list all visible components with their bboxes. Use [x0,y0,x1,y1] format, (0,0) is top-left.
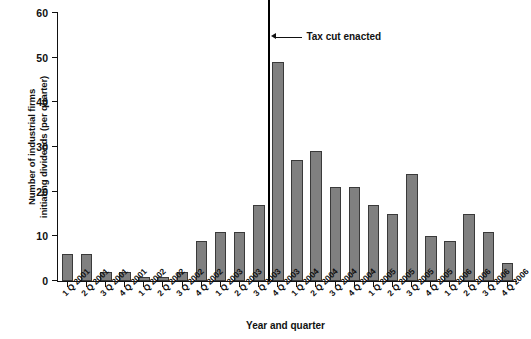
y-axis-tick-label: 10 [36,230,48,242]
bar-slot [135,13,154,281]
y-axis-tick-label: 30 [36,141,48,153]
bar-slot [479,13,498,281]
bar-slot [402,13,421,281]
tax-cut-annotation-label: Tax cut enacted [306,31,381,42]
bar-slot [249,13,268,281]
bar [272,62,283,281]
bar-slot [383,13,402,281]
y-axis-tick-label: 40 [36,96,48,108]
bar-slot [498,13,517,281]
bar-slot [96,13,115,281]
bar-slot [345,13,364,281]
bar-series [58,13,517,281]
bar-slot [460,13,479,281]
tax-cut-marker-line [268,0,270,281]
bar-slot [268,13,287,281]
bar [406,174,417,281]
bar [310,151,321,281]
bar-slot [154,13,173,281]
bar-slot [288,13,307,281]
bar-slot [364,13,383,281]
bar-slot [115,13,134,281]
y-axis-tick-label: 50 [36,52,48,64]
bar-slot [326,13,345,281]
bar [62,254,73,281]
y-axis-tick-label: 0 [42,275,48,287]
x-axis-title: Year and quarter [0,320,531,331]
bar-slot [307,13,326,281]
bar-slot [230,13,249,281]
y-axis-tick-label: 20 [36,186,48,198]
chart-container: Number of industrial firms initiating di… [0,0,531,339]
annotation-leader-line [275,37,302,38]
bar-slot [211,13,230,281]
plot-area: 0102030405060 Tax cut enacted [57,13,517,282]
bar-slot [173,13,192,281]
bar-slot [441,13,460,281]
bar [291,160,302,281]
bar-slot [192,13,211,281]
bar-slot [58,13,77,281]
bar-slot [421,13,440,281]
y-axis-tick-label: 60 [36,7,48,19]
bar-slot [77,13,96,281]
